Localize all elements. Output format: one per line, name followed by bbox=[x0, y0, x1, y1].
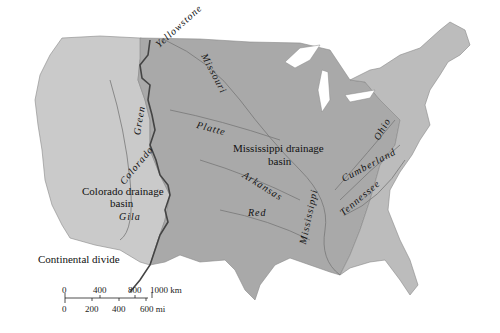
scale-mi-400: 400 bbox=[112, 304, 126, 314]
label-colorado-basin-1: Colorado drainage bbox=[82, 186, 164, 197]
label-continental-divide: Continental divide bbox=[38, 254, 120, 265]
scale-km-0: 0 bbox=[62, 285, 67, 295]
us-drainage-map bbox=[0, 0, 500, 333]
scale-mi-200: 200 bbox=[85, 304, 99, 314]
scale-km-800: 800 bbox=[128, 285, 142, 295]
label-gila-river: Gila bbox=[119, 212, 141, 222]
label-mississippi-basin-1: Mississippi drainage bbox=[233, 143, 324, 154]
label-red-river: Red bbox=[248, 208, 267, 218]
label-colorado-basin-2: basin bbox=[110, 198, 133, 209]
scale-km-400: 400 bbox=[93, 285, 107, 295]
scale-mi-0: 0 bbox=[62, 304, 67, 314]
scale-km-1000: 1000 km bbox=[150, 285, 182, 295]
label-mississippi-basin-2: basin bbox=[268, 156, 291, 167]
scale-mi-600: 600 mi bbox=[140, 304, 165, 314]
